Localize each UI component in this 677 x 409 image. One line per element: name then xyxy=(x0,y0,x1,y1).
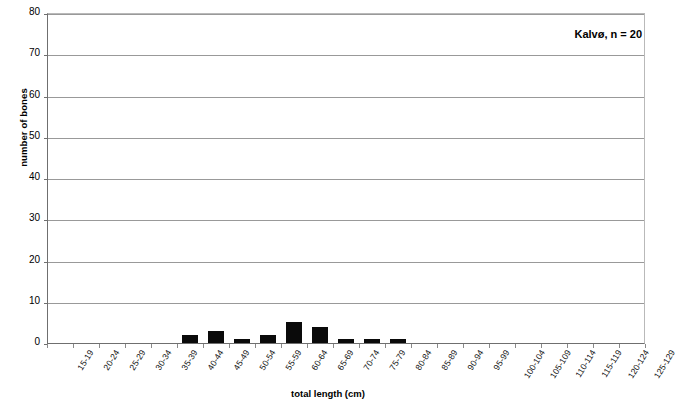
x-tick-label: 20-24 xyxy=(101,348,121,372)
bar xyxy=(338,339,353,343)
y-tick-label: 50 xyxy=(0,131,40,141)
y-tick-label: 0 xyxy=(0,337,40,347)
x-tick-label: 120-124 xyxy=(626,348,651,380)
x-tick-label: 70-74 xyxy=(361,348,381,372)
y-tick-label: 10 xyxy=(0,296,40,306)
x-tick-label: 50-54 xyxy=(257,348,277,372)
bar xyxy=(364,339,379,343)
x-tick-label: 125-129 xyxy=(652,348,677,380)
x-tick-mark xyxy=(645,344,646,348)
x-tick-label: 40-44 xyxy=(205,348,225,372)
x-tick-label: 35-39 xyxy=(179,348,199,372)
x-axis-title: total length (cm) xyxy=(0,388,656,399)
x-tick-label: 25-29 xyxy=(127,348,147,372)
x-tick-label: 80-84 xyxy=(413,348,433,372)
y-tick-label: 30 xyxy=(0,213,40,223)
bar xyxy=(260,335,275,343)
x-tick-label: 100-104 xyxy=(522,348,547,380)
x-tick-label: 110-114 xyxy=(573,348,598,379)
bar xyxy=(234,339,249,343)
series-annotation-label: Kalvø, n = 20 xyxy=(574,28,642,40)
x-tick-label: 45-49 xyxy=(231,348,251,372)
bar xyxy=(390,339,405,343)
bar xyxy=(182,335,197,343)
bar xyxy=(208,331,223,343)
x-tick-label: 75-79 xyxy=(387,348,407,372)
y-tick-label: 80 xyxy=(0,7,40,17)
x-tick-label: 30-34 xyxy=(153,348,173,372)
y-tick-label: 40 xyxy=(0,172,40,182)
x-tick-label: 60-64 xyxy=(309,348,329,372)
y-tick-label: 20 xyxy=(0,255,40,265)
x-tick-label: 65-69 xyxy=(335,348,355,372)
y-tick-label: 60 xyxy=(0,90,40,100)
x-tick-label: 15-19 xyxy=(75,348,95,372)
y-tick-label: 70 xyxy=(0,48,40,58)
x-tick-label: 85-89 xyxy=(439,348,459,372)
x-axis-tick-labels: 15-1920-2425-2930-3435-3940-4445-4950-54… xyxy=(47,348,645,388)
bars-layer xyxy=(47,13,645,343)
x-tick-label: 105-109 xyxy=(548,348,573,380)
x-tick-label: 90-94 xyxy=(465,348,485,372)
bar xyxy=(286,322,301,343)
x-tick-label: 55-59 xyxy=(283,348,303,372)
x-tick-label: 95-99 xyxy=(491,348,511,372)
x-tick-label: 115-119 xyxy=(599,348,624,379)
bar xyxy=(312,327,327,344)
